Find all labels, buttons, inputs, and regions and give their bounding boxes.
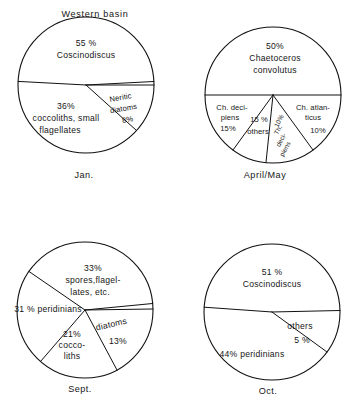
pie-chart-oct: 51 % Coscinodiscus others 5 % 44% peridi…	[204, 244, 340, 396]
slice-label-jan-coscinodiscus-pct: 55 %	[76, 38, 97, 48]
pie-chart-april-may: 50% Chaetoceros convolutus Ch. deci- pie…	[205, 27, 341, 180]
slice-label-sept-coccoliths-b: liths	[64, 351, 81, 361]
slice-label-jan-coccoliths-name-a: coccoliths, small	[33, 113, 100, 123]
chart-caption-jan: Jan.	[74, 170, 93, 180]
chart-caption-oct: Oct.	[259, 386, 278, 396]
slice-label-sept-diatoms-pct: 13%	[109, 336, 127, 346]
slice-label-apr-atlanticus-b: ticus	[305, 113, 321, 122]
slice-label-apr-atlanticus-a: Ch. atlan-	[296, 103, 330, 112]
chart-caption-april-may: April/May	[244, 170, 286, 180]
chart-caption-sept: Sept.	[68, 384, 92, 394]
slice-label-sept-spores-a: spores,flagel-	[65, 275, 120, 285]
slice-label-sept-coccoliths-pct: 21%	[63, 329, 81, 339]
slice-label-sept-coccoliths-a: cocco-	[59, 340, 86, 350]
slice-label-oct-coscinodiscus-name: Coscinodiscus	[243, 279, 302, 289]
slice-label-oct-peridinians: 44% peridinians	[220, 349, 285, 359]
slice-label-apr-decipiens-a: Ch. deci-	[216, 103, 248, 112]
slice-label-oct-others-name: others	[287, 321, 312, 331]
slice-label-apr-others-name: others	[247, 127, 269, 136]
slice-label-jan-coccoliths-pct: 36%	[57, 101, 75, 111]
slice-label-apr-chaetoceros-name-a: Chaetoceros	[249, 53, 300, 63]
slice-label-apr-chaetoceros-pct: 50%	[266, 41, 284, 51]
slice-label-sept-spores-b: lates, etc.	[70, 287, 110, 297]
slice-label-apr-decipiens-pct: 15%	[220, 124, 236, 133]
slice-label-jan-coccoliths-name-b: flagellates	[39, 125, 80, 135]
slice-label-oct-coscinodiscus-pct: 51 %	[262, 267, 283, 277]
pie-chart-jan: 55 % Coscinodiscus 36% coccoliths, small…	[18, 17, 154, 180]
slice-label-sept-peridinians: 31 % peridinians	[14, 304, 82, 314]
slice-label-jan-coscinodiscus-name: Coscinodiscus	[57, 50, 116, 60]
slice-label-oct-others-pct: 5 %	[294, 335, 310, 345]
slice-label-sept-spores-pct: 33%	[84, 263, 102, 273]
slice-label-apr-chaetoceros-name-b: convolutus	[253, 65, 297, 75]
slice-label-apr-decipiens-b: piens	[221, 113, 240, 122]
figure-canvas: Western basin 55 % Coscinodiscus 36% coc…	[0, 0, 353, 409]
pie-chart-figure: Western basin 55 % Coscinodiscus 36% coc…	[0, 0, 353, 409]
slice-label-apr-others-pct: 15 %	[250, 115, 268, 124]
slice-label-apr-atlanticus-pct: 10%	[310, 126, 326, 135]
pie-chart-sept: 33% spores,flagel- lates, etc. 31 % peri…	[14, 242, 153, 394]
